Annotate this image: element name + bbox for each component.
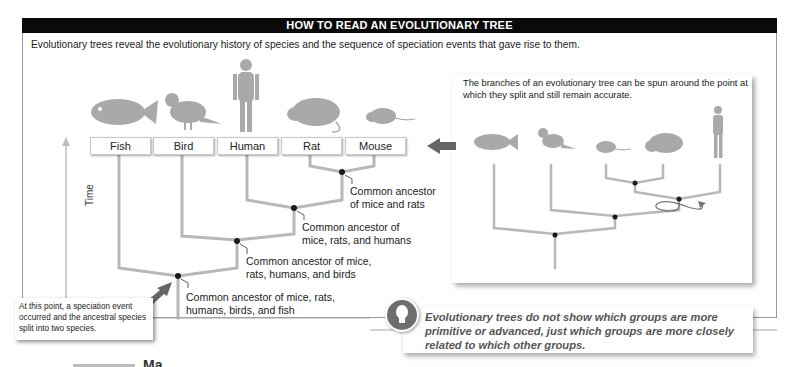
note-text: Evolutionary trees do not show which gro… bbox=[425, 310, 755, 352]
inset-silhouettes bbox=[474, 106, 723, 158]
ancestor-label-mice-rats-humans: Common ancestor of mice, rats, and human… bbox=[302, 221, 411, 247]
taxon-label-mouse: Mouse bbox=[345, 137, 406, 155]
mouse-icon bbox=[366, 108, 415, 124]
rat-icon bbox=[287, 98, 340, 132]
taxon-label-rat: Rat bbox=[281, 137, 342, 155]
inset-rat-icon bbox=[645, 133, 683, 153]
lightbulb-icon bbox=[385, 298, 419, 332]
inset-tree-branches bbox=[494, 165, 720, 268]
cut-off-heading: Ma bbox=[143, 358, 188, 367]
fish-icon bbox=[91, 99, 158, 125]
ancestor-label-line: Common ancestor bbox=[350, 185, 436, 198]
speciation-callout: At this point, a speciation event occurr… bbox=[15, 298, 153, 340]
time-axis-label: Time bbox=[84, 184, 95, 206]
ancestor-label-line: Common ancestor of mice, bbox=[246, 255, 371, 268]
inset-human-icon bbox=[713, 106, 723, 158]
time-axis-arrow bbox=[62, 137, 70, 300]
bird-icon bbox=[165, 93, 222, 130]
inset-nodes bbox=[553, 181, 682, 238]
inset-fish-icon bbox=[474, 134, 518, 150]
ancestor-label-line: humans, birds, and fish bbox=[186, 304, 335, 317]
animal-silhouettes bbox=[91, 59, 415, 132]
left-arrow-icon bbox=[427, 138, 456, 154]
ancestor-label-line: Common ancestor of bbox=[302, 221, 411, 234]
ancestor-label-line: of mice and rats bbox=[350, 198, 436, 211]
taxon-label-bird: Bird bbox=[153, 137, 214, 155]
taxon-label-human: Human bbox=[217, 137, 278, 155]
taxon-label-fish: Fish bbox=[90, 137, 151, 155]
ancestor-label-line: Common ancestor of mice, rats, bbox=[186, 291, 335, 304]
ancestor-label-mice-rats: Common ancestor of mice and rats bbox=[350, 185, 436, 211]
inset-mouse-icon bbox=[596, 141, 631, 153]
ancestor-label-fish: Common ancestor of mice, rats, humans, b… bbox=[186, 291, 335, 317]
rotate-arrow-icon bbox=[656, 201, 706, 211]
ancestor-label-line: mice, rats, and humans bbox=[302, 234, 411, 247]
ancestor-label-birds: Common ancestor of mice, rats, humans, a… bbox=[246, 255, 371, 281]
inset-bird-icon bbox=[538, 128, 576, 149]
ancestor-label-line: rats, humans, and birds bbox=[246, 268, 371, 281]
human-icon bbox=[233, 59, 259, 132]
